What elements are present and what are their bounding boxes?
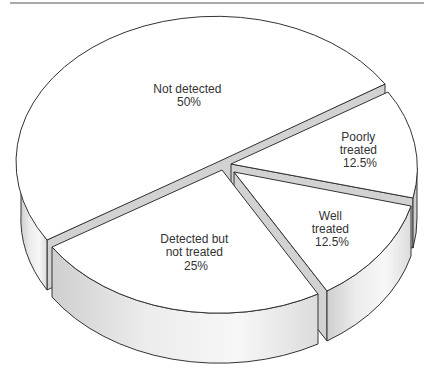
pie-chart-3d: Not detected 50% Poorly treated 12.5% We…	[0, 0, 432, 377]
label-poorly-treated: Poorly treated 12.5%	[340, 130, 381, 170]
